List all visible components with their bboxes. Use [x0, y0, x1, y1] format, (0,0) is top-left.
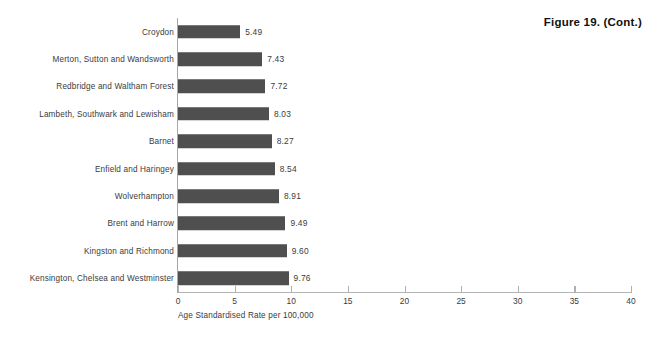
x-tick [518, 286, 519, 293]
x-tick [574, 286, 575, 293]
x-tick-label: 15 [343, 296, 352, 306]
x-axis-ticks: 0510152025303540 [0, 0, 656, 338]
x-tick [291, 286, 292, 293]
plot-area: Croydon5.49Merton, Sutton and Wandsworth… [0, 0, 656, 338]
x-tick [405, 286, 406, 293]
x-tick [178, 286, 179, 293]
x-tick-label: 40 [626, 296, 635, 306]
x-tick-label: 25 [456, 296, 465, 306]
x-tick-label: 30 [513, 296, 522, 306]
x-tick [348, 286, 349, 293]
x-tick-label: 10 [287, 296, 296, 306]
figure-container: Figure 19. (Cont.) Croydon5.49Merton, Su… [0, 0, 656, 338]
x-tick-label: 5 [232, 296, 237, 306]
x-tick-label: 0 [176, 296, 181, 306]
x-tick [631, 286, 632, 293]
x-tick-label: 35 [570, 296, 579, 306]
x-tick [235, 286, 236, 293]
x-tick [461, 286, 462, 293]
x-axis-title: Age Standardised Rate per 100,000 [178, 311, 314, 320]
x-tick-label: 20 [400, 296, 409, 306]
